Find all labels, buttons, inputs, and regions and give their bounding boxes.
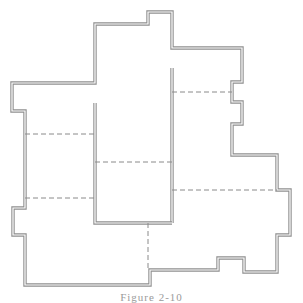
outer-wall [12,12,290,285]
inner-walls [95,68,172,223]
area-division-lines [25,92,277,270]
figure-caption: Figure 2-10 [0,291,303,303]
